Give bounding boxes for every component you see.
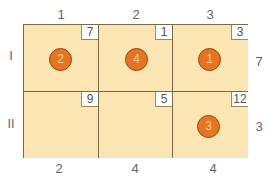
supply-II: 3 <box>250 119 268 134</box>
cell-II-2: 5 <box>99 92 173 158</box>
allocation-circle: 2 <box>49 48 72 71</box>
supply-I: 7 <box>250 54 268 69</box>
cell-II-1: 9 <box>24 92 99 158</box>
cell-I-1: 7 2 <box>24 25 99 92</box>
row-header-I: I <box>4 48 18 63</box>
cost-box: 12 <box>231 92 248 107</box>
cell-I-3: 3 1 <box>173 25 248 92</box>
cost-box: 9 <box>81 92 98 107</box>
allocation-circle: 3 <box>197 115 220 138</box>
demand-1: 2 <box>49 161 69 176</box>
allocation-circle: 4 <box>125 48 148 71</box>
cost-box: 3 <box>231 25 248 40</box>
transport-grid: 7 2 1 4 3 1 9 5 12 3 <box>23 24 248 158</box>
demand-3: 4 <box>203 161 223 176</box>
allocation-circle: 1 <box>198 48 221 71</box>
cost-box: 5 <box>155 92 172 107</box>
column-header-2: 2 <box>126 7 146 22</box>
cost-box: 1 <box>155 25 172 40</box>
column-header-3: 3 <box>200 7 220 22</box>
cost-box: 7 <box>81 25 98 40</box>
cell-II-3: 12 3 <box>173 92 248 158</box>
row-header-II: II <box>4 116 18 131</box>
cell-I-2: 1 4 <box>99 25 173 92</box>
demand-2: 4 <box>125 161 145 176</box>
column-header-1: 1 <box>51 7 71 22</box>
